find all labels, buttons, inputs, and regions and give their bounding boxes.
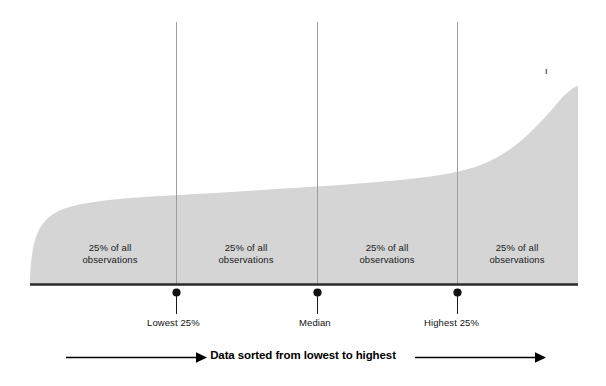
band-label-line1: 25% of all [489,242,544,254]
band-label-quartile-2: 25% of all observations [218,242,273,265]
scan-artifact-mark [546,69,548,74]
band-label-line2: observations [218,254,273,266]
band-label-line2: observations [82,254,137,266]
sorted-data-quartile-figure: 25% of all observations 25% of all obser… [0,0,606,386]
tick-label-median: Median [299,317,331,328]
tick-label-lowest-25: Lowest 25% [147,317,200,328]
band-label-quartile-3: 25% of all observations [359,242,414,265]
band-label-quartile-4: 25% of all observations [489,242,544,265]
band-label-line1: 25% of all [82,242,137,254]
quartile-area-chart [0,0,606,386]
band-label-quartile-1: 25% of all observations [82,242,137,265]
tick-label-highest-25: Highest 25% [424,317,479,328]
x-axis-caption: Data sorted from lowest to highest [0,349,606,361]
band-label-line2: observations [489,254,544,266]
band-label-line1: 25% of all [218,242,273,254]
band-label-line2: observations [359,254,414,266]
marker-dot-highest [453,288,461,296]
marker-dot-lowest [172,288,180,296]
marker-dot-median [313,288,321,296]
band-label-line1: 25% of all [359,242,414,254]
